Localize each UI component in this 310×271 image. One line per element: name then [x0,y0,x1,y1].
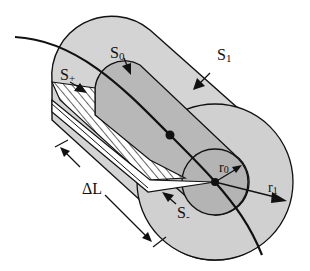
tube-diagram: S0 S1 S+ S- ΔL r0 r1 [0,0,310,271]
label-s1: S1 [217,46,231,64]
curve-point-upper [166,131,175,140]
label-delta-l: ΔL [82,180,102,197]
